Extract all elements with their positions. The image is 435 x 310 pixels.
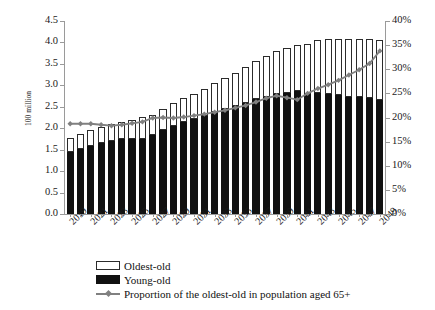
y-axis-right-tick-mark	[386, 21, 390, 22]
y-axis-left-tick-label: 4.5	[22, 15, 58, 25]
y-axis-right-tick-mark	[386, 93, 390, 94]
y-axis-right-tick-label: 25%	[392, 87, 411, 97]
y-axis-left-tick-label: 3.5	[22, 58, 58, 68]
x-axis-tick-mark	[111, 214, 112, 217]
line-marker-diamond-icon	[109, 123, 114, 128]
y-axis-left-tick-label: 1.5	[22, 144, 58, 154]
y-axis-right-tick-label: 40%	[392, 15, 411, 25]
legend-label-proportion: Proportion of the oldest-old in populati…	[124, 288, 350, 300]
x-axis-tick-mark	[328, 214, 329, 217]
legend-label-young-old: Young-old	[124, 274, 171, 286]
y-axis-right-tick-mark	[386, 69, 390, 70]
line-marker-diamond-icon	[181, 114, 186, 119]
y-axis-left-tick-mark	[60, 171, 64, 172]
y-axis-left-ticks: 0.00.51.01.52.02.53.03.54.04.5	[22, 0, 58, 310]
x-axis-tick-mark	[380, 214, 381, 217]
line-marker-diamond-icon	[98, 122, 103, 127]
y-axis-right-tick-label: 20%	[392, 112, 411, 122]
chart-legend: Oldest-old Young-old Proportion of the o…	[96, 259, 396, 301]
legend-swatch-oldest-old-icon	[96, 261, 120, 270]
x-axis-tick-mark	[349, 214, 350, 217]
line-marker-diamond-icon	[326, 82, 331, 87]
y-axis-right-tick-mark	[386, 190, 390, 191]
y-axis-left-tick-label: 2.5	[22, 101, 58, 111]
line-marker-diamond-icon	[222, 108, 227, 113]
y-axis-left-tick-label: 2.0	[22, 122, 58, 132]
legend-label-oldest-old: Oldest-old	[124, 260, 170, 272]
x-axis-tick-mark	[215, 214, 216, 217]
y-axis-right-tick-label: 35%	[392, 39, 411, 49]
line-marker-diamond-icon	[160, 115, 165, 120]
x-axis-tick-mark	[70, 214, 71, 217]
legend-line-marker-icon	[96, 289, 120, 298]
y-axis-right-tick-label: 10%	[392, 160, 411, 170]
y-axis-right-tick-mark	[386, 166, 390, 167]
y-axis-left-tick-mark	[60, 193, 64, 194]
y-axis-left-tick-mark	[60, 128, 64, 129]
y-axis-left-tick-mark	[60, 64, 64, 65]
y-axis-right-tick-mark	[386, 142, 390, 143]
line-marker-diamond-icon	[140, 119, 145, 124]
x-axis-tick-mark	[266, 214, 267, 217]
legend-item-proportion[interactable]: Proportion of the oldest-old in populati…	[96, 287, 396, 300]
line-marker-diamond-icon	[119, 122, 124, 127]
line-marker-diamond-icon	[202, 111, 207, 116]
x-axis-tick-mark	[91, 214, 92, 217]
y-axis-left-tick-mark	[60, 21, 64, 22]
y-axis-left-tick-label: 1.0	[22, 165, 58, 175]
y-axis-right-tick-mark	[386, 214, 390, 215]
legend-swatch-young-old-icon	[96, 275, 120, 284]
x-axis-tick-mark	[339, 214, 340, 217]
x-axis-tick-mark	[101, 214, 102, 217]
x-axis-tick-mark	[359, 214, 360, 217]
y-axis-right-tick-label: 15%	[392, 136, 411, 146]
x-axis-tick-mark	[122, 214, 123, 217]
x-axis-tick-mark	[153, 214, 154, 217]
x-axis-tick-mark	[173, 214, 174, 217]
line-marker-diamond-icon	[78, 121, 83, 126]
y-axis-right-tick-mark	[386, 45, 390, 46]
x-axis-tick-mark	[132, 214, 133, 217]
y-axis-left-tick-mark	[60, 42, 64, 43]
x-axis-tick-mark	[308, 214, 309, 217]
x-axis-tick-mark	[297, 214, 298, 217]
x-axis-tick-mark	[194, 214, 195, 217]
line-marker-diamond-icon	[212, 110, 217, 115]
y-axis-right-tick-mark	[386, 118, 390, 119]
y-axis-left-tick-label: 4.0	[22, 36, 58, 46]
x-axis-tick-mark	[163, 214, 164, 217]
line-marker-diamond-icon	[88, 121, 93, 126]
legend-item-young-old[interactable]: Young-old	[96, 273, 396, 286]
x-axis-tick-mark	[184, 214, 185, 217]
x-axis-tick-mark	[204, 214, 205, 217]
chart-container: 100 million 0.00.51.01.52.02.53.03.54.04…	[0, 0, 435, 310]
line-marker-diamond-icon	[150, 115, 155, 120]
line-marker-diamond-icon	[191, 113, 196, 118]
line-series-proportion	[70, 51, 380, 126]
line-marker-diamond-icon	[129, 121, 134, 126]
line-marker-diamond-icon	[264, 96, 269, 101]
line-series-layer	[65, 21, 385, 214]
x-axis-tick-mark	[318, 214, 319, 217]
y-axis-left-tick-mark	[60, 85, 64, 86]
line-marker-diamond-icon	[253, 99, 258, 104]
y-axis-left-tick-mark	[60, 214, 64, 215]
line-marker-diamond-icon	[67, 121, 72, 126]
x-axis-tick-mark	[80, 214, 81, 217]
x-axis-tick-mark	[256, 214, 257, 217]
x-axis-tick-mark	[370, 214, 371, 217]
line-marker-diamond-icon	[233, 105, 238, 110]
x-axis-tick-mark	[235, 214, 236, 217]
y-axis-left-tick-mark	[60, 107, 64, 108]
legend-item-oldest-old[interactable]: Oldest-old	[96, 259, 396, 272]
y-axis-left-tick-label: 3.0	[22, 79, 58, 89]
x-axis-tick-mark	[225, 214, 226, 217]
x-axis-tick-mark	[277, 214, 278, 217]
plot-area	[65, 21, 385, 214]
x-axis-tick-mark	[287, 214, 288, 217]
y-axis-right-tick-label: 30%	[392, 63, 411, 73]
line-marker-diamond-icon	[315, 86, 320, 91]
y-axis-left-tick-label: 0.5	[22, 187, 58, 197]
line-marker-diamond-icon	[171, 115, 176, 120]
x-axis-tick-mark	[246, 214, 247, 217]
